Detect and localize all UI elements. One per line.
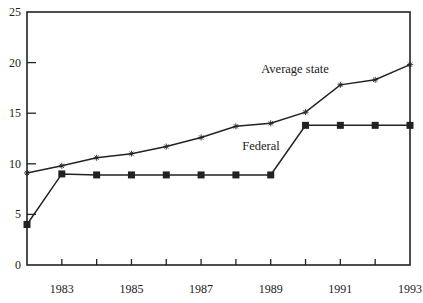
data-point-federal bbox=[93, 171, 100, 178]
annotation-federal: Federal bbox=[242, 139, 280, 153]
data-point-average-state bbox=[59, 163, 65, 169]
y-tick-label: 25 bbox=[9, 5, 21, 19]
y-tick-label: 0 bbox=[15, 258, 21, 272]
data-point-federal bbox=[302, 122, 309, 129]
data-point-average-state bbox=[94, 155, 100, 161]
x-tick-label: 1983 bbox=[50, 282, 74, 296]
x-tick-label: 1991 bbox=[328, 282, 352, 296]
data-point-average-state bbox=[198, 134, 204, 140]
data-point-average-state bbox=[303, 109, 309, 115]
data-point-federal bbox=[24, 221, 31, 228]
data-point-average-state bbox=[337, 82, 343, 88]
y-tick-label: 15 bbox=[9, 106, 21, 120]
plot-frame bbox=[27, 12, 410, 265]
data-point-federal bbox=[163, 171, 170, 178]
series-line-average-state bbox=[27, 65, 410, 173]
y-tick-label: 20 bbox=[9, 56, 21, 70]
data-point-federal bbox=[267, 171, 274, 178]
data-point-federal bbox=[337, 122, 344, 129]
data-point-average-state bbox=[372, 77, 378, 83]
series-group bbox=[24, 62, 414, 228]
data-point-average-state bbox=[407, 62, 413, 68]
axes bbox=[27, 12, 410, 265]
ticks: 0510152025198319851987198919911993 bbox=[9, 5, 422, 296]
data-point-federal bbox=[372, 122, 379, 129]
data-point-average-state bbox=[233, 123, 239, 129]
data-point-average-state bbox=[24, 170, 30, 176]
data-point-federal bbox=[198, 171, 205, 178]
line-chart: 0510152025198319851987198919911993 Avera… bbox=[0, 0, 423, 303]
x-tick-label: 1989 bbox=[259, 282, 283, 296]
x-tick-label: 1993 bbox=[398, 282, 422, 296]
data-point-average-state bbox=[128, 151, 134, 157]
data-point-average-state bbox=[163, 144, 169, 150]
data-point-federal bbox=[128, 171, 135, 178]
data-point-federal bbox=[232, 171, 239, 178]
y-tick-label: 5 bbox=[15, 207, 21, 221]
y-tick-label: 10 bbox=[9, 157, 21, 171]
x-tick-label: 1985 bbox=[119, 282, 143, 296]
x-tick-label: 1987 bbox=[189, 282, 213, 296]
annotation-average-state: Average state bbox=[261, 62, 329, 76]
data-point-federal bbox=[58, 170, 65, 177]
annotations: Average stateFederal bbox=[242, 62, 329, 153]
data-point-federal bbox=[407, 122, 414, 129]
data-point-average-state bbox=[268, 120, 274, 126]
series-line-federal bbox=[27, 125, 410, 224]
